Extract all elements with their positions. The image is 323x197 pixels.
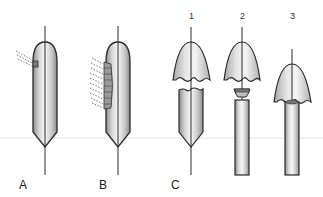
panel-a-balloon (16, 26, 57, 175)
panel-b-balloon (90, 26, 130, 175)
step-number-3: 3 (290, 12, 295, 21)
panel-label-b: B (99, 179, 107, 191)
step-number-1: 1 (189, 12, 194, 21)
diagram-canvas: A B C 1 2 3 (0, 0, 323, 197)
panel-c-step-2 (224, 27, 260, 175)
panel-label-a: A (19, 179, 27, 191)
panel-c-step-3 (274, 49, 311, 175)
step-number-2: 2 (240, 12, 245, 21)
panel-c-step-1 (173, 27, 210, 175)
panel-label-c: C (171, 179, 180, 191)
